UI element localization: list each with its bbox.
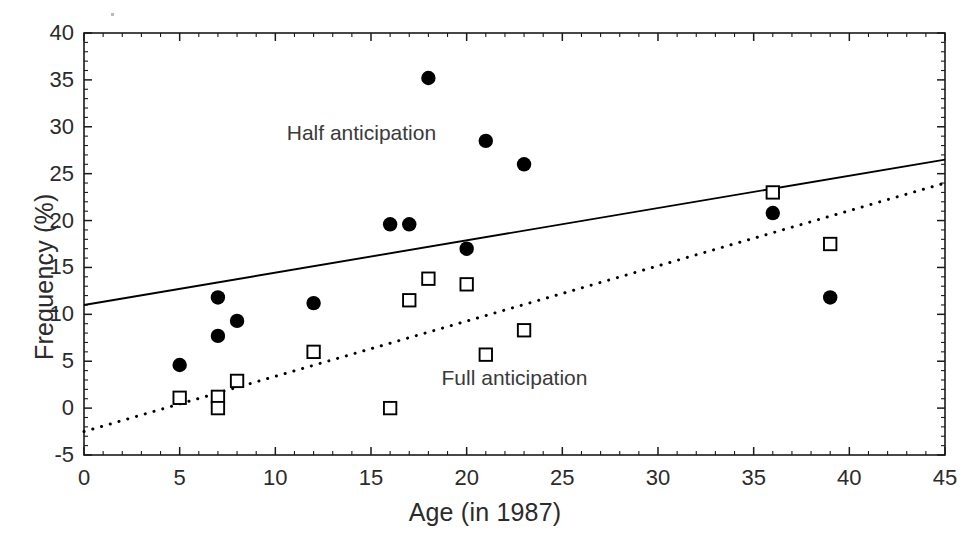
y-tick-label: 40 [28,20,74,46]
data-point-full [173,392,185,404]
data-point-half [421,71,435,85]
data-point-half [823,290,837,304]
data-point-half [230,314,244,328]
data-point-full [231,375,243,387]
regression-line-half [84,160,945,305]
data-point-half [172,358,186,372]
data-point-full [460,278,472,290]
y-axis-title: Frequency (%) [30,193,59,360]
data-point-full [307,346,319,358]
scan-artifact-speck [111,13,114,16]
x-tick-label: 25 [550,465,574,491]
x-tick-label: 40 [837,465,861,491]
data-point-half [517,157,531,171]
data-point-full [403,294,415,306]
data-point-half [211,290,225,304]
full-anticipation-label: Full anticipation [442,366,588,390]
data-point-full [384,402,396,414]
x-tick-label: 15 [359,465,383,491]
y-tick-label: -5 [28,442,74,468]
y-tick-label: 25 [28,161,74,187]
data-point-full [824,238,836,250]
data-point-full [518,324,530,336]
data-point-half [459,241,473,255]
data-point-half [383,217,397,231]
y-tick-label: 35 [28,67,74,93]
data-point-full [767,186,779,198]
x-tick-label: 45 [933,465,957,491]
x-tick-label: 10 [263,465,287,491]
half-anticipation-markers [172,71,837,372]
data-point-full [212,402,224,414]
y-tick-label: 0 [28,395,74,421]
data-point-full [422,272,434,284]
x-tick-label: 35 [741,465,765,491]
x-axis-title: Age (in 1987) [0,498,970,527]
x-tick-label: 30 [646,465,670,491]
x-tick-label: 0 [78,465,90,491]
plot-canvas [0,0,970,541]
y-tick-label: 30 [28,114,74,140]
x-tick-label: 20 [454,465,478,491]
data-point-half [306,296,320,310]
data-point-full [480,348,492,360]
x-tick-label: 5 [174,465,186,491]
data-point-half [211,329,225,343]
data-point-half [766,206,780,220]
half-anticipation-label: Half anticipation [287,121,436,145]
data-point-half [402,217,416,231]
data-point-half [479,134,493,148]
scatter-plot-figure: -50510152025303540 051015202530354045 Fr… [0,0,970,541]
